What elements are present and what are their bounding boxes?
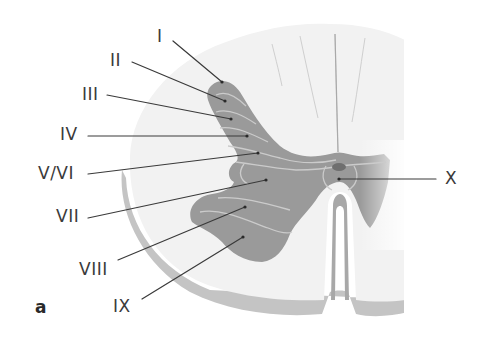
label-lamina-I: I bbox=[157, 28, 163, 45]
label-lamina-IX: IX bbox=[113, 298, 131, 315]
label-lamina-II: II bbox=[110, 52, 121, 69]
label-lamina-VII: VII bbox=[56, 208, 79, 225]
central-canal bbox=[332, 163, 346, 171]
panel-letter: a bbox=[35, 299, 46, 316]
ventral-fissure bbox=[331, 194, 349, 300]
label-lamina-IV: IV bbox=[60, 126, 78, 143]
label-lamina-V-VI: V/VI bbox=[38, 165, 74, 182]
label-lamina-VIII: VIII bbox=[79, 261, 108, 278]
spinal-cord-diagram: I II III IV V/VI VII VIII IX X a bbox=[0, 0, 496, 342]
cord-illustration bbox=[0, 0, 496, 342]
label-lamina-III: III bbox=[82, 86, 99, 103]
label-lamina-X: X bbox=[445, 170, 457, 187]
